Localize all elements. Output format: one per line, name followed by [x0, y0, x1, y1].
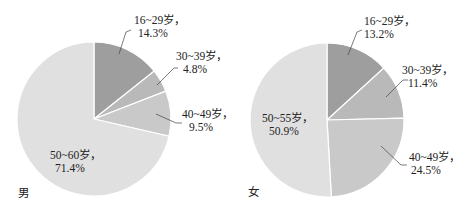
gender-label-female: 女	[248, 185, 259, 198]
gender-label-male: 男	[18, 187, 29, 199]
slice-label-male-50-60-age: 50~60岁，	[50, 148, 101, 161]
slice-label-male-30-39-pct: 4.8%	[183, 63, 207, 75]
slice-label-female-16-29-age: 16~29岁，	[364, 14, 415, 27]
slice-label-male-30-39-age: 30~39岁，	[176, 49, 227, 62]
slice-label-male-16-29-age: 16~29岁，	[134, 13, 185, 26]
slice-label-female-50-55-pct: 50.9%	[269, 125, 299, 137]
pie-charts-canvas: 16~29岁， 14.3% 30~39岁， 4.8% 40~49岁， 9.5% …	[0, 0, 461, 215]
slice-label-female-50-55-age: 50~55岁，	[262, 111, 313, 124]
pie-chart-male	[17, 42, 171, 196]
slice-label-female-30-39-age: 30~39岁，	[402, 63, 453, 76]
slice-label-female-40-49-pct: 24.5%	[411, 164, 441, 176]
slice-label-female-16-29-pct: 13.2%	[364, 28, 394, 40]
slice-label-female-40-49-age: 40~49岁，	[409, 150, 460, 163]
pie-slice-40~49岁	[327, 118, 404, 197]
slice-label-male-50-60-pct: 71.4%	[55, 162, 85, 174]
slice-label-male-40-49-age: 40~49岁，	[182, 107, 233, 120]
slice-label-male-16-29-pct: 14.3%	[138, 27, 168, 39]
slice-label-female-30-39-pct: 11.4%	[408, 77, 438, 89]
slice-label-male-40-49-pct: 9.5%	[189, 121, 213, 133]
